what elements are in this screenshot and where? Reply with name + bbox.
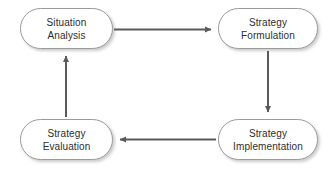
node-strategy-evaluation[interactable]: Strategy Evaluation [20,119,113,160]
node-strategy-evaluation-label: Strategy Evaluation [39,127,95,153]
strategic-management-cycle-diagram: Situation Analysis Strategy Formulation … [0,0,329,169]
node-situation-analysis[interactable]: Situation Analysis [20,8,113,49]
node-strategy-formulation[interactable]: Strategy Formulation [218,8,318,49]
node-strategy-implementation[interactable]: Strategy Implementation [218,119,318,160]
node-situation-analysis-label: Situation Analysis [43,16,91,42]
node-strategy-implementation-label: Strategy Implementation [229,127,307,153]
node-strategy-formulation-label: Strategy Formulation [237,16,299,42]
